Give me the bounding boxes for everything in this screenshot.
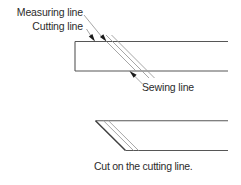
cutting-line-arrowhead [89,34,95,42]
cut-strip-line-1 [104,121,134,151]
cut-strip-line-2 [109,121,139,151]
cutting-line-label: Cutting line [6,21,83,32]
measuring-leader-line [84,15,104,40]
measuring-line-label: Measuring line [6,7,83,18]
diagram-page: Measuring line Cutting line Sewing line … [0,0,241,185]
cut-strip-cut-edge [96,121,126,151]
measuring-line-on-fabric [107,42,137,72]
sewing-line-label: Sewing line [142,82,194,93]
caption-text: Cut on the cutting line. [94,161,192,172]
